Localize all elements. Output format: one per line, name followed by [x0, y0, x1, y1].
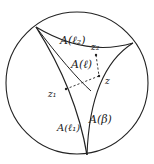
label-z2: z₂: [90, 42, 100, 52]
hyperbolic-disk-figure: A(ℓ₂) A(ℓ) z₂ z z₁ A(ℓ₁) A(β): [0, 0, 154, 164]
label-z: z: [104, 76, 110, 86]
diagram-canvas: A(ℓ₂) A(ℓ) z₂ z z₁ A(ℓ₁) A(β): [0, 0, 154, 164]
point-z1-dot: [65, 88, 67, 90]
point-z2-dot: [95, 54, 97, 56]
point-z-dot: [98, 75, 100, 77]
label-region-l1: A(ℓ₁): [56, 122, 80, 133]
geodesic-beta: [87, 43, 133, 155]
dashed-z-z1: [66, 76, 99, 89]
label-z1: z₁: [47, 89, 56, 99]
label-region-l2: A(ℓ₂): [59, 34, 86, 47]
dashed-z-z2: [96, 55, 99, 76]
label-region-l: A(ℓ): [70, 58, 92, 71]
label-region-beta: A(β): [88, 113, 112, 126]
